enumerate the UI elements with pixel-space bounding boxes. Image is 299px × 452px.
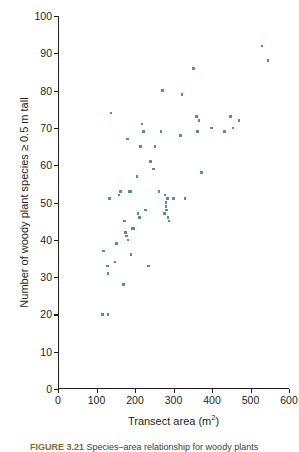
data-point bbox=[163, 212, 166, 215]
scatter-plot: 0102030405060708090100 01002003004005006… bbox=[58, 16, 289, 389]
figure-caption-text: Species–area relationship for woody plan… bbox=[87, 442, 259, 452]
data-point bbox=[110, 112, 113, 115]
data-point bbox=[165, 205, 168, 208]
data-point bbox=[124, 231, 127, 234]
data-point bbox=[195, 115, 198, 118]
y-tick bbox=[54, 240, 58, 241]
x-tick bbox=[212, 389, 213, 393]
data-point bbox=[125, 235, 128, 238]
data-point bbox=[108, 197, 111, 200]
data-point bbox=[129, 190, 132, 193]
data-point bbox=[223, 130, 226, 133]
data-point bbox=[144, 209, 147, 212]
y-tick bbox=[54, 277, 58, 278]
y-axis-title: Number of woody plant species ≥ 0.5 m ta… bbox=[16, 16, 32, 389]
data-point bbox=[238, 119, 241, 122]
y-tick-label: 60 bbox=[40, 160, 52, 171]
x-tick bbox=[174, 389, 175, 393]
data-point bbox=[165, 201, 168, 204]
x-axis-title-base: Transect area (m bbox=[128, 415, 211, 427]
y-tick-label: 0 bbox=[46, 384, 52, 395]
x-axis-title-suffix: ) bbox=[215, 415, 219, 427]
data-point bbox=[196, 130, 199, 133]
data-point bbox=[142, 130, 145, 133]
figure-container: 0102030405060708090100 01002003004005006… bbox=[0, 0, 299, 452]
data-point bbox=[158, 190, 161, 193]
figure-caption: FIGURE 3.21 Species–area relationship fo… bbox=[30, 442, 291, 452]
data-point bbox=[122, 283, 125, 286]
y-tick bbox=[54, 314, 58, 315]
data-point bbox=[198, 119, 201, 122]
data-point bbox=[119, 190, 122, 193]
data-point bbox=[154, 145, 157, 148]
data-point bbox=[152, 168, 155, 171]
x-tick-label: 300 bbox=[165, 395, 183, 406]
y-tick bbox=[54, 203, 58, 204]
y-axis-line bbox=[58, 16, 59, 389]
data-point bbox=[102, 250, 105, 253]
data-point bbox=[130, 253, 133, 256]
data-point bbox=[106, 265, 109, 268]
x-tick bbox=[58, 389, 59, 393]
figure-caption-label: FIGURE 3.21 bbox=[30, 442, 84, 452]
data-point bbox=[166, 197, 169, 200]
y-tick bbox=[54, 91, 58, 92]
y-tick-label: 10 bbox=[40, 346, 52, 357]
x-tick-label: 100 bbox=[88, 395, 106, 406]
x-tick bbox=[251, 389, 252, 393]
y-tick-label: 90 bbox=[40, 48, 52, 59]
data-point bbox=[123, 220, 126, 223]
data-point bbox=[192, 67, 195, 70]
y-tick bbox=[54, 352, 58, 353]
data-point bbox=[210, 127, 213, 130]
data-point bbox=[232, 127, 235, 130]
y-tick-label: 30 bbox=[40, 272, 52, 283]
data-point bbox=[179, 134, 182, 137]
data-point bbox=[137, 212, 140, 215]
data-point bbox=[172, 197, 175, 200]
data-point bbox=[136, 175, 139, 178]
data-point bbox=[138, 216, 141, 219]
x-tick-label: 500 bbox=[242, 395, 260, 406]
y-tick bbox=[54, 165, 58, 166]
data-point bbox=[200, 171, 203, 174]
data-point bbox=[267, 59, 270, 62]
data-point bbox=[147, 265, 150, 268]
y-tick-label: 40 bbox=[40, 235, 52, 246]
data-point bbox=[141, 123, 144, 126]
y-tick-label: 50 bbox=[40, 197, 52, 208]
data-point bbox=[168, 220, 171, 223]
data-point bbox=[107, 313, 110, 316]
data-point bbox=[101, 313, 104, 316]
data-point bbox=[165, 209, 168, 212]
data-point bbox=[127, 239, 130, 242]
x-tick-label: 200 bbox=[126, 395, 144, 406]
x-tick bbox=[135, 389, 136, 393]
y-tick-label: 100 bbox=[34, 11, 52, 22]
data-point bbox=[114, 261, 117, 264]
x-tick bbox=[289, 389, 290, 393]
data-point bbox=[160, 130, 163, 133]
data-point bbox=[261, 45, 264, 48]
x-axis-title: Transect area (m2) bbox=[58, 414, 289, 427]
data-point bbox=[149, 160, 152, 163]
data-point bbox=[161, 89, 164, 92]
data-point bbox=[184, 197, 187, 200]
data-point bbox=[126, 138, 129, 141]
data-point bbox=[181, 93, 184, 96]
y-tick-label: 20 bbox=[40, 309, 52, 320]
y-tick bbox=[54, 16, 58, 17]
data-point bbox=[229, 115, 232, 118]
data-point bbox=[132, 227, 135, 230]
y-tick bbox=[54, 128, 58, 129]
data-point bbox=[107, 272, 110, 275]
x-tick bbox=[97, 389, 98, 393]
x-tick-label: 0 bbox=[55, 395, 61, 406]
data-point bbox=[118, 194, 121, 197]
y-tick-label: 80 bbox=[40, 85, 52, 96]
y-tick-label: 70 bbox=[40, 123, 52, 134]
data-point bbox=[115, 242, 118, 245]
data-point bbox=[164, 194, 167, 197]
y-tick bbox=[54, 53, 58, 54]
data-point bbox=[139, 145, 142, 148]
